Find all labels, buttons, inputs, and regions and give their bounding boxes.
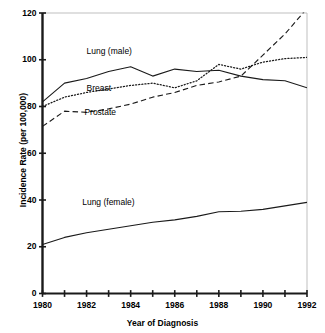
y-tick-label-0: 0 (0, 288, 37, 298)
series-line-prostate (43, 8, 308, 126)
y-tick-label-120: 120 (0, 8, 37, 18)
plot-area (0, 0, 325, 333)
series-line-lung-male (43, 67, 308, 102)
y-axis-title: Incidence Rate (per 100,000) (18, 80, 28, 220)
series-lines (43, 8, 308, 244)
series-label-prostate: Prostate (84, 107, 116, 117)
x-tick-label-1988: 1988 (199, 300, 239, 310)
x-tick-label-1990: 1990 (243, 300, 283, 310)
series-line-lung-female (43, 202, 308, 244)
x-tick-label-1982: 1982 (67, 300, 107, 310)
x-tick-label-1980: 1980 (23, 300, 63, 310)
x-tick-label-1986: 1986 (155, 300, 195, 310)
incidence-rate-line-chart: 020406080100120 198019821984198619881990… (0, 0, 325, 333)
y-tick-label-100: 100 (0, 54, 37, 64)
x-axis-title: Year of Diagnosis (0, 318, 325, 328)
x-tick-label-1984: 1984 (111, 300, 151, 310)
series-label-lung-male: Lung (male) (87, 46, 132, 56)
series-label-breast: Breast (87, 83, 112, 93)
series-label-lung-female: Lung (female) (82, 197, 134, 207)
y-tick-label-20: 20 (0, 241, 37, 251)
axes (39, 13, 307, 297)
x-tick-label-1992: 1992 (287, 300, 325, 310)
series-line-breast (43, 57, 308, 106)
